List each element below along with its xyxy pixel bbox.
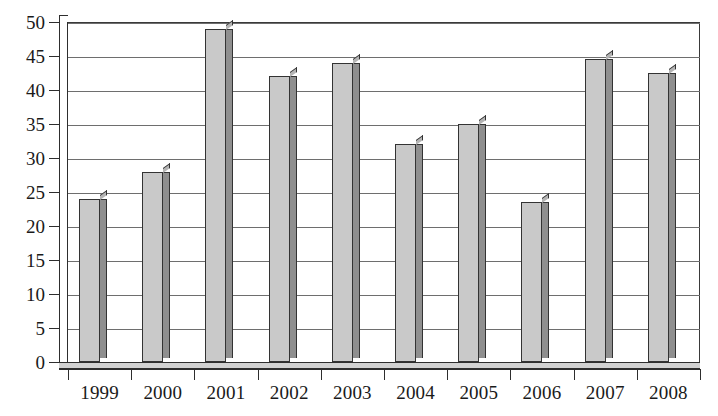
bar-front-face: [332, 63, 353, 362]
bar-chart: 05101520253035404550 1999200020012002200…: [0, 0, 718, 416]
bar-front-face: [205, 29, 226, 362]
x-axis-tick-mark: [194, 369, 195, 380]
bar-slot: [510, 22, 573, 362]
x-axis-tick-mark: [258, 369, 259, 380]
bar[interactable]: [395, 144, 416, 362]
x-axis-tick-mark: [574, 369, 575, 380]
bar-front-face: [142, 172, 163, 362]
bar-side-face: [353, 63, 360, 358]
y-axis-tick-label: 15: [0, 251, 45, 270]
x-axis-tick-label: 2000: [128, 383, 198, 402]
bar-slot: [384, 22, 447, 362]
y-axis-tick-mark: [49, 56, 60, 57]
bar[interactable]: [521, 202, 542, 362]
bar-front-face: [458, 124, 479, 362]
x-axis-tick-label: 2005: [444, 383, 514, 402]
bar-slot: [258, 22, 321, 362]
y-axis-tick-label: 50: [0, 13, 45, 32]
y-axis-tick-label: 10: [0, 285, 45, 304]
x-axis-tick-mark: [510, 369, 511, 380]
y-axis-tick-label: 40: [0, 81, 45, 100]
y-axis-tick-mark: [49, 22, 60, 23]
bar-side-face: [542, 202, 549, 358]
x-axis-tick-label: 2001: [191, 383, 261, 402]
y-axis-tick-mark: [49, 328, 60, 329]
y-axis-tick-label: 30: [0, 149, 45, 168]
x-axis-tick-label: 2006: [507, 383, 577, 402]
bar[interactable]: [332, 63, 353, 362]
y-axis-tick-label: 5: [0, 319, 45, 338]
y-axis-tick-label: 45: [0, 47, 45, 66]
bar-side-face: [290, 76, 297, 358]
y-axis-tick-mark: [49, 90, 60, 91]
bar-side-face: [416, 144, 423, 358]
x-axis-tick-mark: [384, 369, 385, 380]
x-axis-tick-mark: [131, 369, 132, 380]
bar-side-face: [163, 172, 170, 358]
bar-front-face: [585, 59, 606, 362]
bar-slot: [447, 22, 510, 362]
bar-slot: [131, 22, 194, 362]
bar-slot: [574, 22, 637, 362]
bar[interactable]: [79, 199, 100, 362]
bar-front-face: [395, 144, 416, 362]
bar[interactable]: [648, 73, 669, 362]
bar-slot: [68, 22, 131, 362]
y-axis-tick-mark: [49, 192, 60, 193]
y-axis-tick-mark: [49, 226, 60, 227]
y-axis-tick-mark: [49, 124, 60, 125]
bar-front-face: [521, 202, 542, 362]
x-axis-tick-label: 2002: [254, 383, 324, 402]
bar-front-face: [648, 73, 669, 362]
bar[interactable]: [142, 172, 163, 362]
bar-side-face: [100, 199, 107, 358]
bar-slot: [637, 22, 700, 362]
bar-side-face: [669, 73, 676, 358]
bar[interactable]: [269, 76, 290, 362]
y-axis-tick-label: 25: [0, 183, 45, 202]
bar[interactable]: [585, 59, 606, 362]
x-axis-tick-label: 2008: [633, 383, 703, 402]
y-axis-tick-mark: [49, 158, 60, 159]
bar-slot: [194, 22, 257, 362]
y-axis-tick-label: 0: [0, 353, 45, 372]
y-axis-tick-label: 35: [0, 115, 45, 134]
x-axis-tick-label: 1999: [65, 383, 135, 402]
x-axis-tick-label: 2007: [570, 383, 640, 402]
x-axis-line: [59, 369, 700, 370]
bar-front-face: [269, 76, 290, 362]
bar-side-face: [226, 29, 233, 358]
bar[interactable]: [458, 124, 479, 362]
y-axis-tick-mark: [49, 294, 60, 295]
bar-slot: [321, 22, 384, 362]
bar-front-face: [79, 199, 100, 362]
y-axis-tick-mark: [49, 362, 60, 363]
x-axis-tick-mark: [321, 369, 322, 380]
y-axis-top-cap: [59, 15, 68, 24]
plot-area: [68, 22, 700, 362]
y-axis-tick-label: 20: [0, 217, 45, 236]
x-axis-tick-mark: [68, 369, 69, 380]
y-axis-spine-outer: [59, 16, 60, 363]
bar-side-face: [606, 59, 613, 358]
x-axis-tick-mark: [637, 369, 638, 380]
chart-floor: [59, 362, 700, 369]
x-axis-tick-mark: [447, 369, 448, 380]
y-axis-spine-inner: [67, 22, 68, 363]
bar[interactable]: [205, 29, 226, 362]
x-axis-tick-label: 2004: [381, 383, 451, 402]
y-axis-tick-mark: [49, 260, 60, 261]
x-axis-tick-label: 2003: [317, 383, 387, 402]
x-axis-tick-mark: [700, 369, 701, 380]
bar-side-face: [479, 124, 486, 358]
